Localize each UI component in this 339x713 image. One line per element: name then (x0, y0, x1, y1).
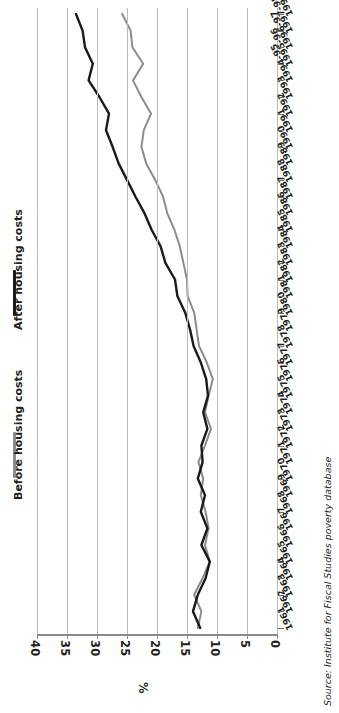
category-tick-mark (278, 379, 284, 380)
legend-label-1: Before housing costs (12, 370, 25, 500)
value-tick-label-15: 15 (178, 640, 192, 674)
category-tick-mark (278, 147, 284, 148)
poverty-rate-chart-figure: After housing costsBefore housing costs … (0, 0, 339, 713)
category-tick-mark (278, 346, 284, 347)
value-tick-mark-20 (157, 634, 158, 639)
value-tick-label-5: 5 (238, 640, 252, 674)
gridline-15 (187, 8, 188, 634)
category-tick-mark (278, 628, 284, 629)
category-tick-mark (278, 495, 284, 496)
category-tick-mark (278, 130, 284, 131)
category-tick-mark (278, 462, 284, 463)
gridline-20 (157, 8, 158, 634)
category-tick-mark (278, 595, 284, 596)
category-tick-mark (278, 611, 284, 612)
value-tick-mark-25 (127, 634, 128, 639)
source-note: Source: Institute for Fiscal Studies pov… (322, 457, 333, 706)
value-tick-mark-5 (247, 634, 248, 639)
category-tick-mark (278, 296, 284, 297)
gridline-30 (97, 8, 98, 634)
category-tick-mark (278, 578, 284, 579)
category-tick-mark (278, 545, 284, 546)
value-tick-mark-10 (217, 634, 218, 639)
gridline-25 (127, 8, 128, 634)
chart-legend: After housing costsBefore housing costs (0, 0, 34, 640)
category-tick-mark (278, 47, 284, 48)
gridline-40 (37, 8, 38, 634)
category-tick-mark (278, 163, 284, 164)
category-tick-mark (278, 412, 284, 413)
category-tick-mark (278, 213, 284, 214)
category-tick-mark (278, 180, 284, 181)
value-tick-label-10: 10 (208, 640, 222, 674)
value-tick-label-30: 30 (88, 640, 102, 674)
category-tick-mark (278, 246, 284, 247)
category-tick-mark (278, 97, 284, 98)
legend-label-0: After housing costs (12, 209, 25, 330)
category-tick-mark (278, 512, 284, 513)
category-tick-mark (278, 263, 284, 264)
category-tick-mark (278, 14, 284, 15)
value-tick-mark-30 (97, 634, 98, 639)
value-tick-mark-35 (67, 634, 68, 639)
value-tick-label-25: 25 (118, 640, 132, 674)
value-tick-label-40: 40 (28, 640, 42, 674)
value-tick-label-20: 20 (148, 640, 162, 674)
category-tick-mark (278, 64, 284, 65)
plot-area (37, 8, 277, 634)
gridline-5 (247, 8, 248, 634)
value-tick-mark-40 (37, 634, 38, 639)
category-tick-mark (278, 429, 284, 430)
series-line-before-housing-costs (122, 14, 213, 628)
value-tick-label-35: 35 (58, 640, 72, 674)
gridline-10 (217, 8, 218, 634)
category-tick-mark (278, 528, 284, 529)
category-tick-mark (278, 80, 284, 81)
value-tick-mark-15 (187, 634, 188, 639)
category-tick-mark (278, 329, 284, 330)
value-axis-label: % (136, 682, 150, 694)
gridline-35 (67, 8, 68, 634)
